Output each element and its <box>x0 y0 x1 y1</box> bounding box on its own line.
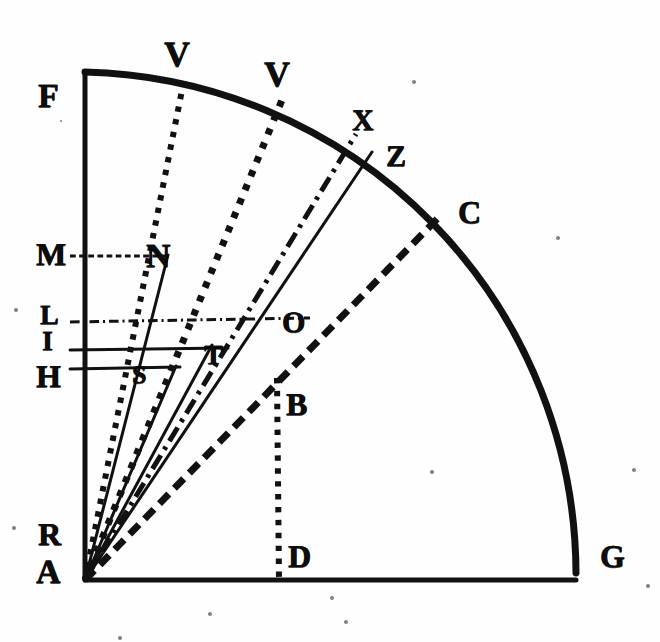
paper-speck <box>632 468 636 472</box>
point-label-n: N <box>146 240 171 274</box>
point-label-b: B <box>286 388 307 420</box>
point-label-o: O <box>282 308 305 338</box>
line-layer <box>70 80 438 580</box>
point-label-v1: V <box>164 36 190 72</box>
point-label-d: D <box>288 540 311 572</box>
arc-FCG <box>85 72 576 573</box>
point-label-f: F <box>38 80 59 114</box>
paper-speck <box>646 584 650 588</box>
geometric-figure: FVVXZCMNLIOTHSBRADG <box>0 0 660 642</box>
point-label-g: G <box>600 540 625 572</box>
figure-canvas <box>0 0 660 642</box>
point-label-s: S <box>132 362 146 388</box>
line-L-O <box>70 318 310 322</box>
ray-A-Z <box>85 152 372 580</box>
paper-speck <box>412 80 416 84</box>
point-label-h: H <box>36 360 61 392</box>
point-label-i: I <box>42 328 53 356</box>
paper-speck <box>208 612 212 616</box>
paper-speck <box>14 308 18 312</box>
point-label-v2: V <box>264 56 290 92</box>
point-label-a: A <box>36 556 61 590</box>
point-label-r: R <box>38 518 61 550</box>
ray-A-T <box>85 345 212 580</box>
point-label-x: X <box>352 106 374 136</box>
point-label-m: M <box>36 238 66 270</box>
paper-speck <box>430 470 434 474</box>
arc-layer <box>85 72 576 573</box>
paper-speck <box>12 526 16 530</box>
point-label-z: Z <box>386 142 406 172</box>
paper-speck <box>118 636 122 640</box>
line-B-D <box>277 378 279 580</box>
point-label-c: C <box>458 196 481 228</box>
paper-speck <box>344 620 348 624</box>
ray-A-C <box>85 218 438 580</box>
paper-speck <box>556 236 560 240</box>
point-label-t: T <box>204 342 223 370</box>
paper-speck <box>330 596 334 600</box>
paper-speck <box>60 120 62 122</box>
